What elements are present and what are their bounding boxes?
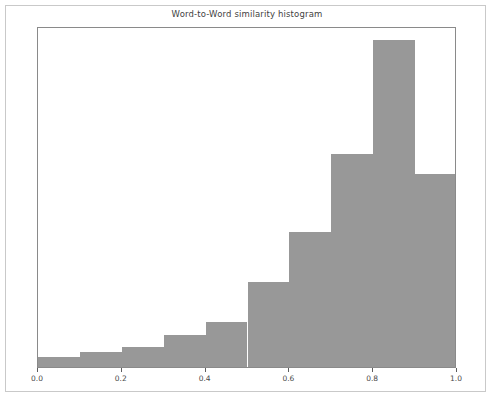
histogram-bar (289, 232, 331, 367)
x-axis-tick-label: 0.0 (31, 374, 43, 383)
x-axis-tick-label: 0.4 (199, 374, 211, 383)
x-axis-tick (37, 368, 38, 372)
histogram-bar (206, 322, 248, 367)
figure-canvas: Word-to-Word similarity histogram 0.00.2… (0, 0, 493, 399)
histogram-bar (38, 357, 80, 367)
x-axis-tick (205, 368, 206, 372)
histogram-bar (122, 347, 164, 367)
histogram-bar (80, 352, 122, 367)
histogram-bar (331, 154, 373, 367)
histogram-bar (415, 174, 456, 367)
plot-area (37, 27, 456, 368)
x-axis-tick (456, 368, 457, 372)
x-axis-tick (121, 368, 122, 372)
x-axis-tick (372, 368, 373, 372)
x-axis-tick-label: 0.2 (115, 374, 127, 383)
page-title: Word-to-Word similarity histogram (37, 9, 457, 19)
x-axis-tick-label: 0.8 (366, 374, 378, 383)
histogram-bar (373, 40, 415, 367)
histogram-bar (248, 282, 290, 367)
histogram-bar (164, 335, 206, 367)
x-axis-tick-label: 1.0 (450, 374, 462, 383)
x-axis-tick-label: 0.6 (282, 374, 294, 383)
histogram-bars (38, 28, 455, 367)
x-axis-tick (288, 368, 289, 372)
